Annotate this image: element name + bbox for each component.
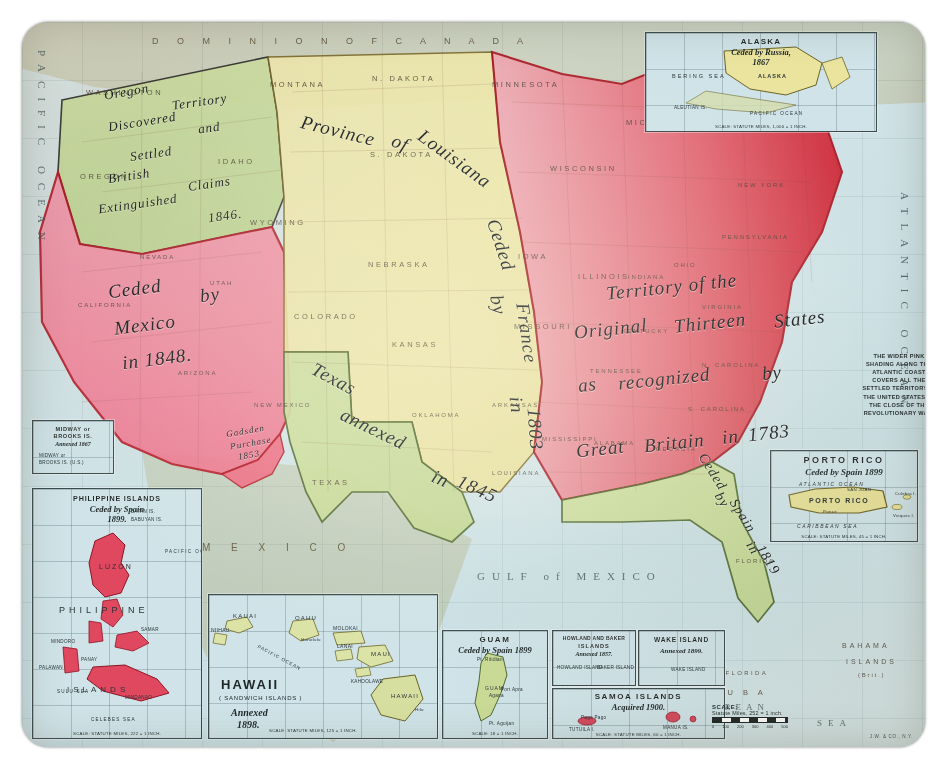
inset-samoa-title: SAMOA ISLANDS: [553, 692, 724, 701]
inset-howland-subtitle: Annexed 1857.: [553, 651, 635, 657]
inset-hawaii-year: 1898.: [237, 719, 260, 730]
inset-philippines-subtitle: Ceded by Spain: [33, 504, 201, 514]
state-label-arizona: ARIZONA: [178, 370, 217, 376]
publisher-imprint: J.W. & CO., N.Y.: [870, 734, 913, 739]
state-label-oklahoma: OKLAHOMA: [412, 412, 460, 418]
state-label-minnesota: MINNESOTA: [492, 80, 559, 89]
ocean-label-atlantic: ATLANTIC OCEAN: [899, 192, 911, 462]
inset-porto-rico-feature-culebra: Culebra I.: [895, 491, 916, 496]
inset-hawaii-feature-oahu: OAHU: [295, 615, 317, 621]
state-label-colorado: COLORADO: [294, 312, 358, 321]
map-scale-bar: SCALE: Statute Miles, 252 = 1 inch. 0 10…: [712, 704, 788, 729]
inset-alaska-feature-alaska: ALASKA: [758, 73, 787, 79]
inset-midway: MIDWAY or BROOKS IS. Annexed 1867 MIDWAY…: [32, 420, 114, 474]
inset-hawaii-scale: SCALE: STATUTE MILES, 125 = 1 INCH.: [269, 728, 357, 733]
inset-hawaii-feature-honolulu: Honolulu: [301, 637, 321, 642]
inset-guam-scale: SCALE: 18 = 1 INCH.: [443, 731, 547, 736]
state-label-montana: MONTANA: [270, 80, 325, 89]
ocean-label-caribbean-sea: SEA: [817, 718, 852, 728]
inset-wake-feature: WAKE ISLAND: [671, 667, 706, 672]
inset-wake-title: WAKE ISLAND: [639, 636, 724, 643]
inset-philippines-feature-mindoro: MINDORO: [51, 639, 75, 644]
script-thirteen-line11: 1783: [747, 420, 791, 446]
inset-guam: GUAM Ceded by Spain 1899 GUAM Pt. Ritidi…: [442, 630, 548, 739]
inset-philippines-feature-samar: SAMAR: [141, 627, 159, 632]
inset-philippines-feature-luzon: LUZON: [99, 563, 133, 570]
inset-philippines-title: PHILIPPINE ISLANDS: [33, 494, 201, 503]
inset-hawaii-feature-molokai: MOLOKAI: [333, 625, 358, 631]
inset-guam-subtitle: Ceded by Spain 1899: [443, 645, 547, 655]
inset-hawaii-feature-lanai: LANAI: [337, 643, 353, 649]
scale-ruler-graphic: [712, 717, 788, 723]
scale-tick-0: 0: [712, 724, 714, 729]
state-label-new-york: NEW YORK: [738, 182, 785, 188]
inset-guam-feature-port-apra: Port Apra: [501, 687, 523, 692]
inset-alaska-feature-bering-sea: BERING SEA: [672, 73, 726, 79]
inset-hawaii-title: HAWAII: [221, 677, 279, 692]
label-mexico-country: M E X I C O: [202, 542, 354, 553]
inset-alaska-feature-pacific: PACIFIC OCEAN: [750, 111, 804, 116]
state-label-idaho: IDAHO: [218, 157, 255, 166]
state-label-wyoming: WYOMING: [250, 218, 306, 227]
label-dominion-of-canada: D O M I N I O N O F C A N A D A: [152, 36, 531, 46]
inset-philippines-scale: SCALE: STATUTE MILES, 222 = 1 INCH.: [33, 731, 201, 736]
inset-samoa-feature-manua: MANUA IS.: [663, 725, 689, 730]
inset-hawaii-annexed: Annexed: [231, 707, 268, 718]
inset-porto-rico-scale: SCALE: STATUTE MILES, 45 = 1 INCH.: [771, 534, 917, 539]
state-label-ohio: OHIO: [674, 262, 697, 268]
inset-wake-island: WAKE ISLAND Annexed 1899. WAKE ISLAND: [638, 630, 725, 686]
label-bahama-islands: BAHAMA: [842, 642, 890, 649]
state-label-illinois: ILLINOIS: [578, 272, 630, 281]
inset-hawaii-feature-hawaii-isl: HAWAII: [391, 693, 419, 699]
label-bahama-islands-2: ISLANDS: [846, 658, 897, 665]
inset-midway-title2: BROOKS IS.: [33, 433, 113, 439]
inset-hawaii-feature-hilo: Hilo: [415, 707, 424, 712]
inset-hawaii-feature-kauai: KAUAI: [233, 613, 257, 619]
inset-porto-rico: PORTO RICO Ceded by Spain 1899 PORTO RIC…: [770, 450, 918, 542]
map-sheet: PACIFIC OCEAN ATLANTIC OCEAN GULF of MEX…: [22, 22, 925, 747]
historical-map-page: PACIFIC OCEAN ATLANTIC OCEAN GULF of MEX…: [0, 0, 947, 769]
inset-samoa-feature-pago-pago: Pago Pago: [581, 715, 606, 720]
inset-guam-feature-ritidian: Pt. Ritidian: [477, 657, 503, 662]
inset-hawaii-subtitle: ( SANDWICH ISLANDS ): [219, 695, 302, 701]
inset-porto-rico-feature-san-juan: SAN JUAN: [847, 487, 871, 492]
script-thirteen-line7: by: [761, 361, 783, 385]
inset-philippines-feature-batan: BATAN IS.: [131, 509, 155, 514]
inset-porto-rico-feature-island: PORTO RICO: [809, 497, 869, 504]
scale-tick-1: 100: [722, 724, 729, 729]
inset-wake-subtitle: Annexed 1899.: [639, 647, 724, 655]
inset-alaska-scale: SCALE: STATUTE MILES, 1,000 = 1 INCH.: [646, 124, 876, 129]
inset-midway-feature-2: BROOKS IS. (U.S.): [39, 460, 84, 465]
inset-howland-title: HOWLAND AND BAKER: [553, 635, 635, 641]
inset-philippines-feature-pacific: PACIFIC OCEAN: [165, 549, 202, 554]
inset-alaska-title: ALASKA: [646, 37, 876, 46]
inset-alaska-feature-aleutian: ALEUTIAN IS.: [674, 105, 707, 110]
inset-philippines-feature-palawan: PALAWAN: [39, 665, 63, 670]
inset-guam-feature-aguijan: Pt. Aguijan: [489, 721, 514, 726]
scale-detail: Statute Miles, 252 = 1 inch.: [712, 710, 788, 716]
state-label-nevada: NEVADA: [140, 254, 175, 260]
inset-samoa: SAMOA ISLANDS Acquired 1900. TUTUILA I. …: [552, 688, 725, 739]
inset-midway-subtitle: Annexed 1867: [33, 441, 113, 447]
state-label-louisiana: LOUISIANA: [492, 470, 540, 476]
inset-howland-feature-baker: BAKER ISLAND: [597, 665, 634, 670]
state-label-s-carolina: S. CAROLINA: [688, 406, 746, 412]
inset-alaska: ALASKA Ceded by Russia, 1867 ALASKA BERI…: [645, 32, 877, 132]
inset-philippines-feature-sulu-sea: SULU SEA: [57, 689, 89, 694]
inset-hawaii: KAUAI NIIHAU OAHU MOLOKAI LANAI MAUI KAH…: [208, 594, 438, 739]
inset-howland-feature-howland: HOWLAND ISLAND: [557, 665, 603, 670]
script-oregon-line4: and: [197, 119, 222, 138]
script-louisiana-line8: 1803: [523, 407, 548, 450]
inset-porto-rico-title: PORTO RICO: [771, 455, 917, 465]
state-label-california: CALIFORNIA: [78, 302, 132, 308]
inset-philippines-feature-philippine: PHILIPPINE: [59, 605, 149, 615]
inset-philippines-feature-mindanao: MINDANAO: [125, 695, 152, 700]
ocean-label-gulf-of-mexico: GULF of MEXICO: [477, 570, 662, 582]
legend-note-pink-shading: THE WIDER PINK SHADING ALONG THE ATLANTI…: [860, 352, 925, 417]
inset-alaska-year: 1867: [646, 57, 876, 67]
inset-hawaii-feature-kahoolawe: KAHOOLAWE: [351, 679, 383, 684]
inset-midway-feature-1: MIDWAY or: [39, 453, 65, 458]
inset-philippines-feature-babuyan: BABUYAN IS.: [131, 517, 163, 522]
inset-howland-baker: HOWLAND AND BAKER ISLANDS Annexed 1857. …: [552, 630, 636, 686]
inset-guam-feature-agana: Agana: [489, 693, 504, 698]
